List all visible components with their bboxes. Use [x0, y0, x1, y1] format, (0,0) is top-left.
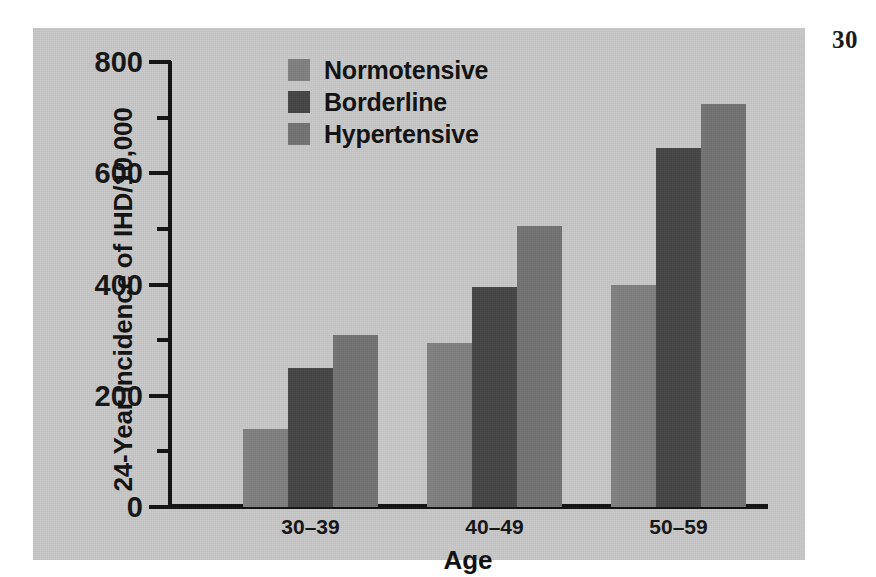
bar: [472, 287, 517, 507]
x-axis-group-label: 40–49: [427, 515, 562, 539]
legend-swatch-icon: [288, 91, 310, 113]
chart-panel: 0200400600800 24-Year Incidence of IHD/1…: [33, 28, 805, 560]
legend-label: Hypertensive: [324, 120, 479, 149]
y-axis-title: 24-Year Incidence of IHD/10,000: [108, 90, 139, 510]
y-axis-major-tick: [149, 283, 171, 287]
legend: NormotensiveBorderlineHypertensive: [288, 55, 488, 151]
bar: [288, 368, 333, 507]
x-axis-group-label: 50–59: [611, 515, 746, 539]
bar: [243, 429, 288, 507]
bar: [333, 335, 378, 507]
y-axis-minor-tick: [157, 449, 171, 453]
bar: [517, 226, 562, 507]
bar: [656, 148, 701, 507]
y-axis-minor-tick: [157, 116, 171, 120]
y-axis-major-tick: [149, 60, 171, 64]
x-axis-title: Age: [168, 545, 768, 576]
bar: [427, 343, 472, 507]
y-axis-minor-tick: [157, 227, 171, 231]
legend-item: Hypertensive: [288, 119, 488, 149]
plot-area: 0200400600800 24-Year Incidence of IHD/1…: [33, 28, 805, 560]
legend-label: Borderline: [324, 88, 447, 117]
legend-label: Normotensive: [324, 56, 488, 85]
page-number: 30: [832, 26, 858, 54]
x-axis-group-label: 30–39: [243, 515, 378, 539]
y-axis-major-tick: [149, 505, 171, 509]
y-axis-major-tick: [149, 171, 171, 175]
bar: [701, 104, 746, 507]
y-axis-major-tick: [149, 394, 171, 398]
figure-root: 30 0200400600800 24-Year Incidence of IH…: [0, 0, 876, 577]
legend-item: Normotensive: [288, 55, 488, 85]
bar: [611, 285, 656, 508]
legend-item: Borderline: [288, 87, 488, 117]
legend-swatch-icon: [288, 59, 310, 81]
y-axis-tick-label-text: 800: [95, 46, 143, 79]
y-axis-minor-tick: [157, 338, 171, 342]
legend-swatch-icon: [288, 123, 310, 145]
